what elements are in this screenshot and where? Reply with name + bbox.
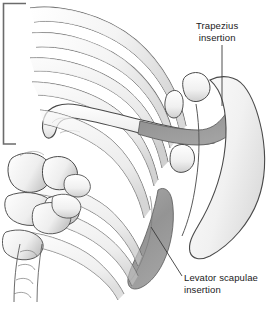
- figure-canvas: Trapezius insertion Levator scapulae ins…: [0, 0, 279, 312]
- scapula-bone: [165, 73, 265, 259]
- label-levator-scapulae-insertion: Levator scapulae insertion: [184, 272, 258, 295]
- vertebral-column: [2, 151, 79, 302]
- label-trapezius-insertion: Trapezius insertion: [196, 20, 238, 43]
- label-trapezius-line1: Trapezius: [196, 20, 238, 32]
- label-trapezius-line2: insertion: [196, 32, 238, 44]
- anatomy-illustration: [0, 0, 279, 312]
- border-bracket: [4, 4, 27, 145]
- label-levator-line1: Levator scapulae: [184, 272, 258, 284]
- label-levator-line2: insertion: [184, 284, 258, 296]
